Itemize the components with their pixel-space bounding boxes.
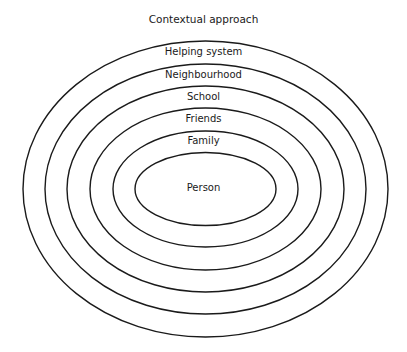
layer-label-person: Person	[0, 182, 407, 194]
layer-label-family: Family	[0, 135, 407, 147]
layer-label-neighbourhood: Neighbourhood	[0, 69, 407, 81]
layer-label-helping-system: Helping system	[0, 46, 407, 58]
layer-label-school: School	[0, 91, 407, 103]
layer-label-friends: Friends	[0, 113, 407, 125]
